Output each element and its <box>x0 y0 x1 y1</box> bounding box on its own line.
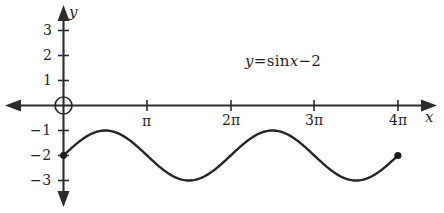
y-axis-arrow-down <box>58 191 70 207</box>
plot-area <box>0 0 444 213</box>
y-axis-arrow-up <box>58 5 70 21</box>
equation-y: y <box>245 52 254 70</box>
y-tick-label-neg2: −2 <box>30 148 52 162</box>
y-axis-label: y <box>69 5 77 20</box>
equation-constant: 2 <box>311 52 321 70</box>
x-axis-arrow-left <box>5 100 21 112</box>
x-tick-label-pi: π <box>142 114 151 128</box>
equation-equals: = <box>254 52 267 70</box>
sine-graph-figure: y x 3 2 1 −1 −2 −3 π 2π 3π 4π y=sinx−2 <box>0 0 444 213</box>
sine-curve <box>64 131 398 181</box>
x-tick-label-3pi: 3π <box>305 113 323 127</box>
y-tick-label-3: 3 <box>43 23 52 37</box>
y-tick-label-1: 1 <box>43 73 52 87</box>
x-axis-label: x <box>425 110 433 125</box>
x-tick-label-2pi: 2π <box>222 113 240 127</box>
sine-curve-group <box>64 131 398 181</box>
equation-annotation: y=sinx−2 <box>245 54 321 69</box>
curve-start-point <box>60 152 67 159</box>
x-axis <box>5 100 437 112</box>
y-tick-label-neg3: −3 <box>30 173 52 187</box>
y-tick-label-neg1: −1 <box>30 123 52 137</box>
equation-sin: sin <box>267 52 290 70</box>
x-tick-label-4pi: 4π <box>389 113 407 127</box>
equation-minus: − <box>298 52 311 70</box>
curve-end-point <box>394 152 401 159</box>
y-tick-label-2: 2 <box>43 48 52 62</box>
